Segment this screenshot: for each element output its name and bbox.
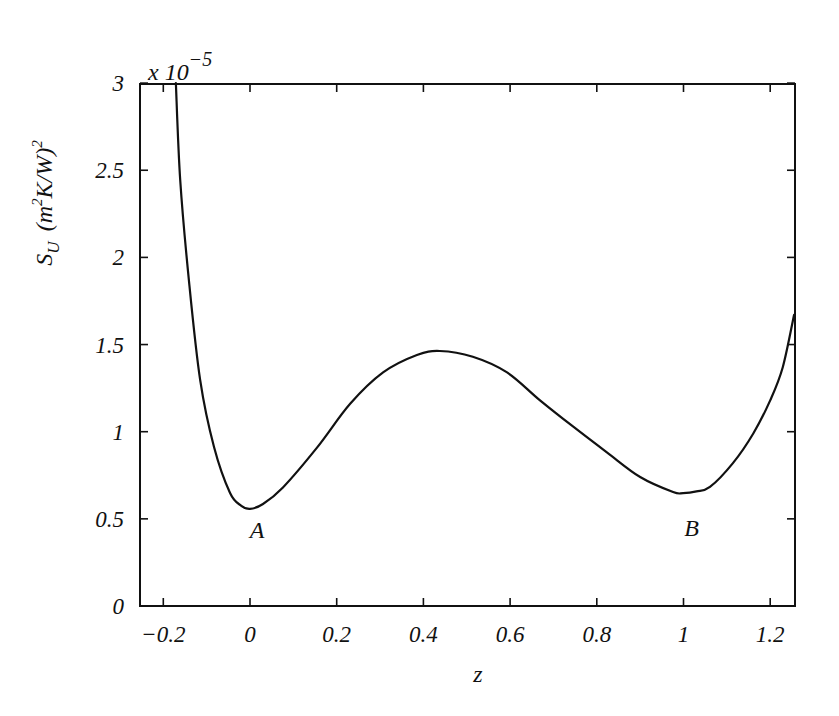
y-tick-label: 1.5	[95, 333, 124, 358]
x-tick-label: 0.2	[322, 622, 351, 647]
y-tick-label: 0	[113, 594, 125, 619]
y-axis-label: SU(m2K/W)2	[29, 140, 63, 266]
y-tick-labels: 00.511.522.53	[95, 71, 124, 619]
x-tick-label: 1	[678, 622, 690, 647]
data-series-su	[176, 83, 794, 509]
x-tick-label: 0.8	[582, 622, 611, 647]
x-tick-label: 1.2	[756, 622, 785, 647]
y-tick-label: 2	[113, 245, 125, 270]
annotation-point-b: B	[684, 515, 699, 541]
annotation-point-a: A	[248, 517, 265, 543]
x-tick-label: 0.6	[496, 622, 525, 647]
x-tick-label: 0	[244, 622, 256, 647]
x-tick-label: 0.4	[409, 622, 438, 647]
y-tick-label: 2.5	[95, 158, 124, 183]
y-tick-label: 1	[113, 420, 125, 445]
chart: −0.200.20.40.60.811.2 00.511.522.53 x 10…	[0, 0, 839, 716]
x-tick-labels: −0.200.20.40.60.811.2	[141, 622, 784, 647]
y-tick-label: 0.5	[95, 507, 124, 532]
x-axis-label: z	[472, 661, 483, 687]
y-scale-multiplier: x 10−5	[147, 48, 212, 85]
x-tick-label: −0.2	[141, 622, 185, 647]
y-tick-label: 3	[112, 71, 125, 96]
